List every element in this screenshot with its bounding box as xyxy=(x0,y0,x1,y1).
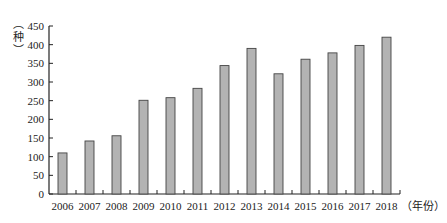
y-tick-label: 100 xyxy=(28,151,45,163)
y-tick-label: 300 xyxy=(28,76,45,88)
bar-2018 xyxy=(382,37,391,194)
x-tick-label: 2018 xyxy=(376,200,399,212)
bar-2017 xyxy=(355,45,364,194)
y-tick-label: 200 xyxy=(28,113,45,125)
x-tick-label: 2015 xyxy=(295,200,318,212)
y-tick-label: 50 xyxy=(33,169,45,181)
bar-2013 xyxy=(247,48,256,194)
bar-2011 xyxy=(193,88,202,194)
y-tick-label: 450 xyxy=(28,20,45,32)
bar-2014 xyxy=(274,74,283,194)
x-tick-label: 2012 xyxy=(214,200,236,212)
x-tick-label: 2010 xyxy=(160,200,183,212)
x-tick-label: 2016 xyxy=(322,200,345,212)
x-axis-unit-label: （年份） xyxy=(401,199,445,213)
bar-2009 xyxy=(139,100,148,194)
bar-2008 xyxy=(112,136,121,194)
y-tick-label: 350 xyxy=(28,57,45,69)
x-tick-label: 2013 xyxy=(241,200,264,212)
y-axis-unit-label: ︵种︶ xyxy=(13,18,24,57)
y-tick-label: 250 xyxy=(28,95,45,107)
y-tick-label: 0 xyxy=(39,188,45,200)
bar-2012 xyxy=(220,66,229,194)
bar-2007 xyxy=(85,141,94,194)
x-tick-label: 2011 xyxy=(187,200,209,212)
y-tick-label: 150 xyxy=(28,132,45,144)
x-tick-label: 2006 xyxy=(52,200,75,212)
x-tick-label: 2014 xyxy=(268,200,291,212)
bar-2010 xyxy=(166,98,175,194)
bar-2016 xyxy=(328,53,337,194)
x-tick-label: 2009 xyxy=(133,200,156,212)
bar-chart: 050100150200250300350400450 200620072008… xyxy=(0,0,447,223)
bars xyxy=(58,37,391,194)
y-tick-label: 400 xyxy=(28,39,45,51)
bar-2006 xyxy=(58,153,67,194)
y-axis: 050100150200250300350400450 xyxy=(28,20,54,200)
x-tick-label: 2017 xyxy=(349,200,372,212)
bar-2015 xyxy=(301,59,310,194)
x-tick-label: 2008 xyxy=(106,200,129,212)
x-tick-label: 2007 xyxy=(79,200,102,212)
